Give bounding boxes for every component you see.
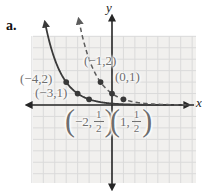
point-label-neg2-half: ( −2, 1 2 ) — [65, 105, 115, 137]
point-label-neg3-1: (−3,1) — [35, 85, 67, 100]
numerator: 1 — [132, 109, 142, 122]
close-paren: ) — [142, 105, 152, 138]
coordinate-x: −2, — [75, 115, 93, 128]
fraction: 1 2 — [94, 109, 104, 134]
y-axis-label: y — [106, 1, 112, 14]
point-label-1-half: ( 1, 1 2 ) — [110, 105, 152, 137]
fraction: 1 2 — [132, 109, 142, 134]
point-label-neg1-2: (−1,2) — [84, 53, 116, 68]
denominator: 2 — [96, 122, 102, 134]
plot-svg — [0, 0, 202, 195]
figure-label: a. — [6, 18, 17, 34]
point-label-neg4-2: (−4,2) — [20, 71, 52, 86]
numerator: 1 — [94, 109, 104, 122]
x-axis-label: x — [196, 96, 202, 109]
coordinate-x: 1, — [120, 115, 131, 128]
open-paren: ( — [110, 105, 120, 138]
graph-figure: a. y x (−4,2) (−3,1) (−1,2) (0,1) ( −2, … — [0, 0, 202, 195]
denominator: 2 — [134, 122, 140, 134]
point-label-0-1: (0,1) — [115, 69, 140, 84]
open-paren: ( — [65, 105, 75, 138]
